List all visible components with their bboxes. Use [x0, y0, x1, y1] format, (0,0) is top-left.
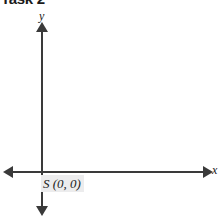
x-axis-label: x — [212, 164, 217, 176]
x-axis-arrow-left-icon — [3, 166, 13, 178]
x-axis-line — [10, 171, 208, 173]
coordinate-plane-figure: Task 2 y x S (0, 0) — [0, 0, 223, 218]
y-axis-label: y — [39, 10, 44, 22]
y-axis-arrow-up-icon — [36, 22, 48, 32]
y-axis-arrow-down-icon — [36, 206, 48, 216]
page-title: Task 2 — [1, 0, 45, 6]
origin-point-label: S (0, 0) — [41, 175, 84, 192]
